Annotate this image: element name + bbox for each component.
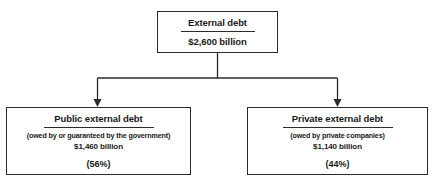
node-private-external-debt-subtitle: (owed by private companies) [248,131,427,141]
node-public-external-debt-percent: (56%) [7,158,190,170]
title-divider [181,31,255,32]
title-divider [283,127,393,128]
node-external-debt-amount: $2,600 billion [158,35,277,49]
node-public-external-debt-amount: $1,460 billion [7,141,190,153]
node-public-external-debt: Public external debt (owed by or guarant… [6,107,191,175]
node-external-debt-title: External debt [158,17,277,29]
node-private-external-debt: Private external debt (owed by private c… [247,107,428,175]
node-public-external-debt-subtitle: (owed by or guaranteed by the government… [7,131,190,141]
node-private-external-debt-percent: (44%) [248,158,427,170]
node-external-debt: External debt $2,600 billion [157,11,278,53]
node-public-external-debt-title: Public external debt [7,113,190,125]
arrowhead-left-icon [94,99,102,107]
arrowhead-right-icon [334,99,342,107]
node-private-external-debt-amount: $1,140 billion [248,141,427,153]
title-divider [44,127,154,128]
node-private-external-debt-title: Private external debt [248,113,427,125]
external-debt-diagram: External debt $2,600 billion Public exte… [0,0,435,185]
